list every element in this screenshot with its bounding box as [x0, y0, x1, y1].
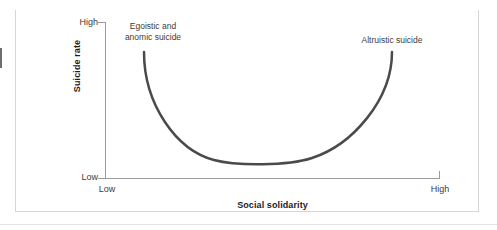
suicide-rate-curve — [144, 52, 392, 164]
y-axis-title: Suicide rate — [72, 21, 84, 111]
x-axis-tick-label-high: High — [425, 184, 455, 195]
figure-root: High Low Low High Suicide rate Social so… — [0, 0, 497, 230]
x-axis-title: Social solidarity — [175, 200, 370, 210]
annotation-altruistic-suicide: Altruistic suicide — [344, 35, 440, 46]
annotation-egoistic-anomic-suicide: Egoistic and anomic suicide — [110, 21, 196, 42]
y-axis-tick-label-low: Low — [72, 172, 98, 183]
x-axis-tick-label-low: Low — [93, 184, 121, 195]
